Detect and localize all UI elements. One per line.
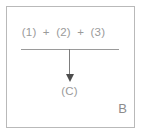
numerator-operator-2: + xyxy=(74,26,87,39)
numerator-term-1: (1) xyxy=(22,26,37,38)
equation-numerator: (1) + (2) + (3) xyxy=(7,26,120,39)
figure-panel-b: (1) + (2) + (3) (C) B xyxy=(6,6,135,122)
equation-result: (C) xyxy=(7,85,134,98)
arrow-head xyxy=(66,74,74,82)
numerator-operator-1: + xyxy=(40,26,53,39)
panel-label: B xyxy=(118,102,127,116)
result-label: (C) xyxy=(61,85,78,97)
numerator-term-2: (2) xyxy=(56,26,71,38)
numerator-term-3: (3) xyxy=(91,26,106,38)
arrow-shaft xyxy=(69,49,70,75)
equation-diagram: (1) + (2) + (3) (C) xyxy=(7,26,134,106)
down-arrow-icon xyxy=(65,49,74,83)
